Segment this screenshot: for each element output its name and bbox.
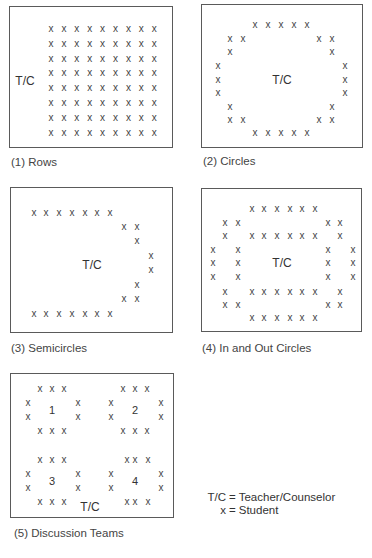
student-mark: x [126,68,131,78]
student-mark: x [292,128,297,138]
student-mark: x [250,313,255,323]
student-mark: x [223,287,228,297]
student-mark: x [216,88,221,98]
student-mark: x [50,455,55,465]
student-mark: x [146,455,151,465]
student-mark: x [326,272,331,282]
student-mark: x [38,455,43,465]
student-mark: x [109,412,114,422]
student-mark: x [159,398,164,408]
student-mark: x [300,231,305,241]
student-mark: x [135,222,140,232]
student-mark: x [133,426,138,436]
student-mark: x [125,455,130,465]
student-mark: x [330,47,335,57]
teacher-mark: T/C [272,257,291,269]
student-mark: x [113,98,118,108]
student-mark: x [343,88,348,98]
student-mark: x [330,115,335,125]
student-mark: x [87,54,92,64]
student-mark: x [125,497,130,507]
legend-key: x [196,504,226,517]
student-mark: x [152,98,157,108]
student-mark: x [61,68,66,78]
caption-discussion-teams: (5) Discussion Teams [14,527,124,539]
student-mark: x [317,115,322,125]
student-mark: x [74,98,79,108]
student-mark: x [87,128,92,138]
legend-value: Teacher/Counselor [239,491,336,504]
student-mark: x [292,20,297,30]
student-mark: x [152,113,157,123]
student-mark: x [326,245,331,255]
student-mark: x [113,128,118,138]
student-mark: x [126,83,131,93]
student-mark: x [223,218,228,228]
student-mark: x [288,287,293,297]
student-mark: x [236,300,241,310]
student-mark: x [216,75,221,85]
student-mark: x [253,128,258,138]
student-mark: x [326,300,331,310]
teacher-mark: T/C [80,501,99,513]
student-mark: x [74,54,79,64]
student-mark: x [32,208,37,218]
student-mark: x [76,412,81,422]
student-mark: x [250,231,255,241]
student-mark: x [100,54,105,64]
student-mark: x [313,204,318,214]
student-mark: x [74,68,79,78]
student-mark: x [61,39,66,49]
student-mark: x [133,497,138,507]
student-mark: x [126,128,131,138]
student-mark: x [26,469,31,479]
student-mark: x [126,54,131,64]
student-mark: x [49,83,54,93]
student-mark: x [351,245,356,255]
student-mark: x [139,98,144,108]
student-mark: x [133,455,138,465]
student-mark: x [135,280,140,290]
student-mark: x [95,309,100,319]
student-mark: x [139,54,144,64]
student-mark: x [113,39,118,49]
student-mark: x [113,24,118,34]
student-mark: x [139,113,144,123]
student-mark: x [108,309,113,319]
student-mark: x [338,300,343,310]
team-number: 1 [49,405,55,416]
student-mark: x [300,204,305,214]
student-mark: x [266,20,271,30]
student-mark: x [317,34,322,44]
student-mark: x [126,39,131,49]
student-mark: x [126,24,131,34]
student-mark: x [216,61,221,71]
student-mark: x [326,218,331,228]
student-mark: x [61,54,66,64]
student-mark: x [305,128,310,138]
student-mark: x [313,231,318,241]
student-mark: x [121,426,126,436]
student-mark: x [275,231,280,241]
student-mark: x [266,128,271,138]
student-mark: x [49,98,54,108]
student-mark: x [87,113,92,123]
student-mark: x [152,24,157,34]
student-mark: x [100,68,105,78]
student-mark: x [61,113,66,123]
student-mark: x [87,68,92,78]
student-mark: x [279,20,284,30]
student-mark: x [87,24,92,34]
legend: T/C=Teacher/Counselor x=Student [196,491,335,517]
student-mark: x [113,113,118,123]
student-mark: x [74,83,79,93]
student-mark: x [44,208,49,218]
student-mark: x [262,287,267,297]
student-mark: x [83,309,88,319]
team-number: 2 [132,405,138,416]
student-mark: x [74,39,79,49]
student-mark: x [152,39,157,49]
student-mark: x [83,208,88,218]
student-mark: x [113,68,118,78]
student-mark: x [338,231,343,241]
